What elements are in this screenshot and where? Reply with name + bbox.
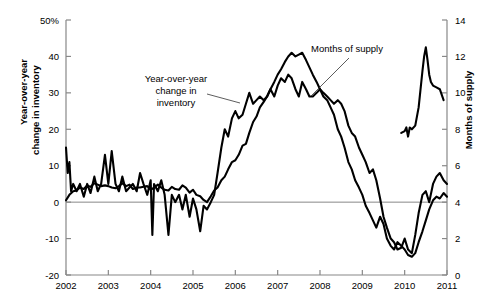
left-axis-tick-label: -10 [45,233,59,244]
x-axis-tick-label: 2003 [98,280,119,291]
x-axis-tick-label: 2011 [437,280,457,291]
chart-background [0,0,486,308]
right-axis-tick-label: 4 [455,197,460,208]
left-axis-tick-label: 20 [48,124,59,135]
x-axis-tick-label: 2006 [225,280,246,291]
right-axis-tick-label: 12 [455,51,466,62]
right-axis-title-label: Months of supply [463,70,474,149]
inventory-annotation-line: Year-over-year [145,73,207,84]
left-axis-title-line2: change in inventory [30,64,41,154]
left-axis-tick-label: 10 [48,160,59,171]
x-axis-tick-label: 2009 [352,280,373,291]
left-axis-tick-label: 0 [54,197,59,208]
left-axis-tick-label: 50% [40,15,60,26]
x-axis-tick-label: 2004 [140,280,161,291]
x-axis-tick-label: 2010 [394,280,415,291]
left-axis-tick-label: -20 [45,270,59,281]
right-axis-tick-label: 8 [455,124,460,135]
right-axis-tick-label: 6 [455,160,460,171]
x-axis-tick-label: 2005 [182,280,203,291]
right-axis-title: Months of supply [463,70,474,149]
right-axis-tick-label: 14 [455,15,466,26]
chart-canvas: 50%403020100-10-201412108642020022003200… [0,0,486,308]
left-axis-tick-label: 40 [48,51,59,62]
right-axis-tick-label: 2 [455,233,460,244]
left-axis-title-line1: Year-over-year [18,59,29,125]
chart-container: 50%403020100-10-201412108642020022003200… [0,0,486,308]
inventory-annotation-line: change in [155,85,196,96]
inventory-annotation-line: inventory [157,97,196,108]
x-axis-tick-label: 2007 [267,280,288,291]
right-axis-tick-label: 0 [455,270,460,281]
top-cropped-text [8,0,128,8]
left-axis-tick-label: 30 [48,87,59,98]
x-axis-tick-label: 2008 [309,280,330,291]
x-axis-tick-label: 2002 [55,280,76,291]
months-annotation-label: Months of supply [311,43,383,54]
